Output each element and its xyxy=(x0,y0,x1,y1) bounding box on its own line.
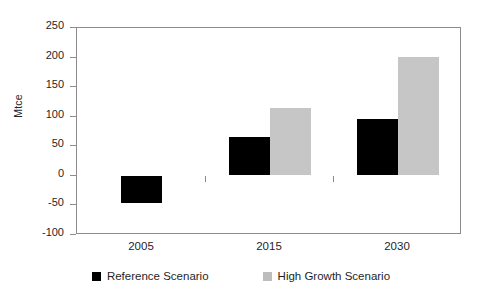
x-axis-tick-mark-2 xyxy=(333,176,334,182)
y-axis-tick-minus100: -100 xyxy=(0,234,76,235)
y-axis-tick-label: 200 xyxy=(46,49,64,61)
x-axis-label-2030: 2030 xyxy=(352,240,442,252)
y-axis-tick-100: 100 xyxy=(0,116,76,117)
chart-legend: Reference Scenario High Growth Scenario xyxy=(0,270,482,282)
x-axis-label-2005: 2005 xyxy=(96,240,186,252)
bar-2005-reference-scenario xyxy=(121,176,162,204)
x-axis-tick-mark-1 xyxy=(205,176,206,182)
bar-chart: Mtce 250 200 150 100 50 0 -50 -100 xyxy=(0,0,482,299)
bar-2015-reference-scenario xyxy=(229,137,270,175)
y-axis-tick-150: 150 xyxy=(0,86,76,87)
y-axis-tick-label: -50 xyxy=(48,196,64,208)
legend-label: Reference Scenario xyxy=(107,270,209,282)
legend-label: High Growth Scenario xyxy=(278,270,391,282)
y-axis-tick-minus50: -50 xyxy=(0,204,76,205)
y-axis-tick-label: 0 xyxy=(58,167,64,179)
y-axis-tick-label: 150 xyxy=(46,78,64,90)
y-axis-tick-label: 250 xyxy=(46,19,64,31)
bar-2030-high-growth-scenario xyxy=(398,57,439,175)
legend-item-reference-scenario: Reference Scenario xyxy=(92,270,209,282)
y-axis-title: Mtce xyxy=(12,76,24,136)
legend-swatch-icon xyxy=(263,272,272,281)
legend-swatch-icon xyxy=(92,272,101,281)
y-axis-tick-250: 250 xyxy=(0,27,76,28)
y-axis-tick-0: 0 xyxy=(0,175,76,176)
bar-2030-reference-scenario xyxy=(357,119,398,175)
y-axis-tick-label: -100 xyxy=(42,226,64,238)
y-axis-tick-200: 200 xyxy=(0,57,76,58)
bar-2015-high-growth-scenario xyxy=(270,108,311,175)
tick-mark-icon xyxy=(70,234,76,235)
y-axis-tick-label: 50 xyxy=(52,137,64,149)
legend-item-high-growth-scenario: High Growth Scenario xyxy=(263,270,391,282)
x-axis-label-2015: 2015 xyxy=(224,240,314,252)
y-axis-tick-label: 100 xyxy=(46,108,64,120)
y-axis-tick-50: 50 xyxy=(0,145,76,146)
